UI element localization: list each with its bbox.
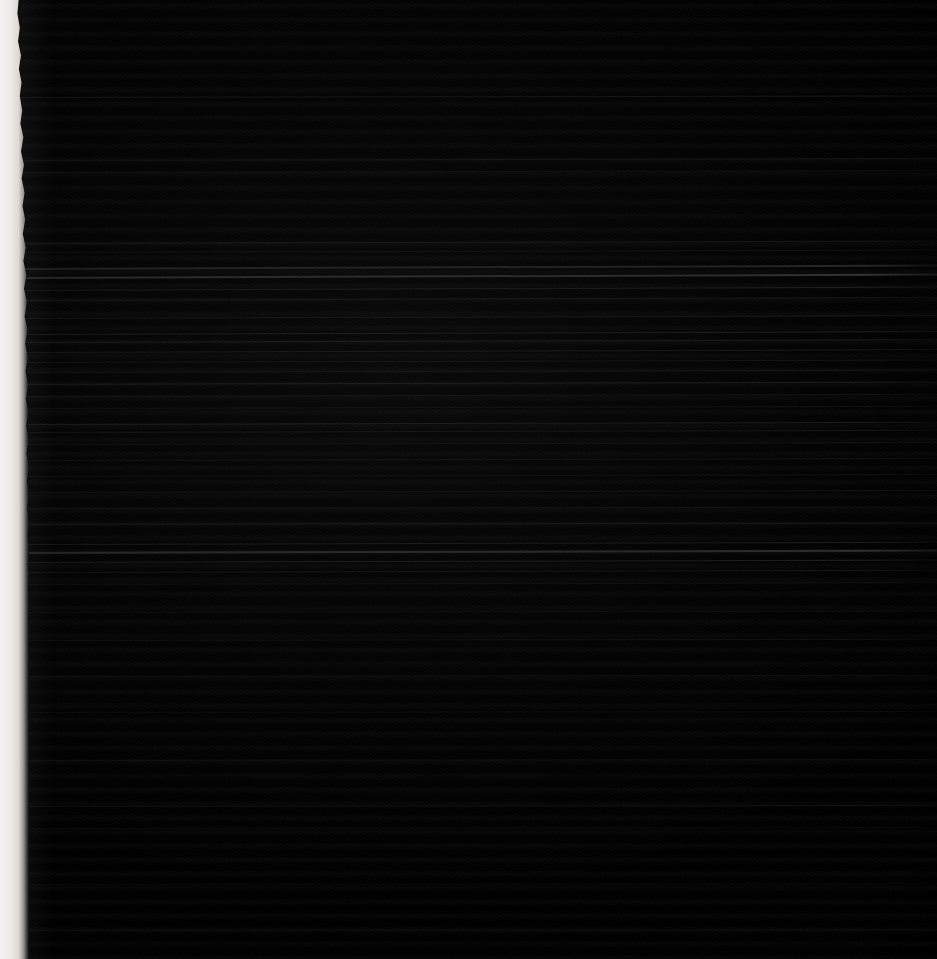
document-scan-image: Severely underexposed photograph of a pr… — [0, 0, 937, 959]
page-background — [0, 0, 937, 959]
